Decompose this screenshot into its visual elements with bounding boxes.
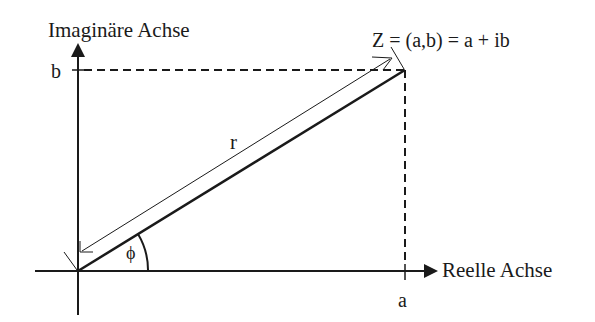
point-z-label: Z = (a,b) = a + ib [372, 30, 510, 50]
real-axis-arrow-icon [424, 264, 438, 278]
x-tick-label: a [398, 290, 407, 310]
vector-r [78, 70, 405, 271]
angle-arc [138, 234, 148, 271]
imaginary-axis-title: Imaginäre Achse [48, 20, 190, 41]
angle-label: ϕ [126, 244, 135, 262]
real-axis [35, 264, 438, 278]
imaginary-axis [71, 43, 85, 315]
real-axis-title: Reelle Achse [442, 260, 552, 281]
y-tick-label: b [51, 61, 61, 81]
magnitude-dimension-arrow [64, 47, 404, 270]
imaginary-axis-arrow-icon [71, 43, 85, 57]
magnitude-label: r [230, 132, 237, 153]
